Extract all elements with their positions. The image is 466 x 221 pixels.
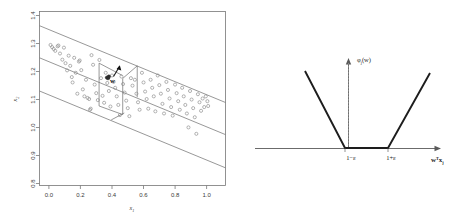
scatter-point bbox=[161, 102, 164, 105]
y-tick-label: 0.9 bbox=[30, 151, 36, 160]
scatter-point bbox=[182, 95, 185, 98]
scatter-point bbox=[196, 93, 199, 96]
scatter-point bbox=[177, 100, 180, 103]
tick-label-lower: 1−ε bbox=[346, 154, 356, 161]
svg-text:x2: x2 bbox=[12, 97, 19, 103]
scatter-point bbox=[133, 78, 136, 81]
x-axis-label: x1 bbox=[129, 205, 135, 213]
figure-canvas: 0.8 0.9 1.0 1.1 1.2 1.3 1.4 x2 bbox=[0, 0, 466, 221]
scatter-point bbox=[129, 77, 132, 80]
w-vector-annotation: w bbox=[110, 65, 121, 84]
scatter-point bbox=[204, 95, 207, 98]
scatter-point bbox=[207, 104, 210, 107]
scatter-point bbox=[128, 115, 131, 118]
scatter-point bbox=[142, 81, 145, 84]
scatter-point bbox=[192, 107, 195, 110]
loss-x-axis-label: wTxj bbox=[431, 156, 444, 165]
x-tick-label: 0.4 bbox=[108, 192, 117, 198]
scatter-point bbox=[80, 69, 83, 72]
scatter-point bbox=[95, 92, 98, 95]
scatter-point bbox=[201, 97, 204, 100]
scatter-point bbox=[187, 126, 190, 129]
scatter-point bbox=[92, 63, 95, 66]
scatter-point bbox=[178, 108, 181, 111]
x-axis-ticks: 0.0 0.2 0.4 0.6 0.8 1.0 bbox=[45, 186, 212, 199]
scatter-point bbox=[57, 44, 60, 47]
scatter-point bbox=[149, 78, 152, 81]
partition-segment-3 bbox=[123, 66, 138, 79]
scatter-point bbox=[188, 89, 191, 92]
scatter-point bbox=[67, 54, 70, 57]
scatter-point bbox=[206, 100, 209, 103]
scatter-point bbox=[117, 103, 120, 106]
x-tick-label: 0.6 bbox=[139, 192, 148, 198]
loss-x-ticks bbox=[345, 149, 388, 153]
scatter-point bbox=[168, 97, 171, 100]
scatter-point bbox=[83, 95, 86, 98]
scatter-point bbox=[71, 81, 74, 84]
y-axis-label: x2 bbox=[12, 97, 19, 103]
scatter-svg: 0.8 0.9 1.0 1.1 1.2 1.3 1.4 x2 bbox=[0, 0, 233, 221]
y-axis-ticks: 0.8 0.9 1.0 1.1 1.2 1.3 1.4 bbox=[30, 11, 40, 188]
partition-segment-5 bbox=[111, 113, 124, 120]
scatter-point bbox=[99, 77, 102, 80]
scatter-point bbox=[69, 64, 72, 67]
scatter-point bbox=[107, 89, 110, 92]
scatter-point bbox=[120, 75, 123, 78]
scatter-point bbox=[84, 78, 87, 81]
scatter-point bbox=[138, 108, 141, 111]
scatter-point bbox=[140, 71, 143, 74]
scatter-point bbox=[81, 88, 84, 91]
scatter-point bbox=[64, 62, 67, 65]
scatter-point bbox=[104, 71, 107, 74]
scatter-point bbox=[136, 101, 139, 104]
scatter-point bbox=[203, 106, 206, 109]
scatter-point bbox=[115, 95, 118, 98]
epsilon-lower-boundary bbox=[40, 91, 226, 168]
scatter-point bbox=[185, 112, 188, 115]
plot-frame bbox=[40, 12, 226, 186]
x-tick-label: 0.0 bbox=[45, 192, 54, 198]
loss-y-axis-label: φj(w) bbox=[357, 56, 371, 65]
scatter-point bbox=[98, 58, 101, 61]
regression-hyperplane bbox=[40, 58, 226, 135]
x-tick-label: 0.2 bbox=[76, 192, 85, 198]
scatter-point bbox=[175, 92, 178, 95]
scatter-point bbox=[193, 116, 196, 119]
scatter-point bbox=[162, 112, 165, 115]
scatter-point bbox=[184, 103, 187, 106]
scatter-point bbox=[147, 107, 150, 110]
scatter-point bbox=[198, 101, 201, 104]
scatter-point bbox=[166, 88, 169, 91]
y-tick-label: 1.3 bbox=[30, 39, 36, 48]
scatter-point bbox=[126, 107, 129, 110]
scatter-point bbox=[170, 106, 173, 109]
scatter-point bbox=[125, 99, 128, 102]
scatter-point bbox=[154, 110, 157, 113]
scatter-point bbox=[190, 98, 193, 101]
w-label: w bbox=[110, 77, 116, 85]
tube-lines bbox=[40, 26, 226, 168]
x-tick-label: 0.8 bbox=[171, 192, 180, 198]
scatter-point bbox=[70, 76, 73, 79]
scatter-point bbox=[101, 94, 104, 97]
scatter-point bbox=[159, 92, 162, 95]
scatter-point bbox=[144, 90, 147, 93]
y-tick-label: 1.1 bbox=[30, 95, 36, 104]
y-tick-label: 1.4 bbox=[30, 11, 36, 20]
epsilon-insensitive-loss-curve bbox=[305, 71, 430, 148]
scatter-point bbox=[62, 46, 65, 49]
scatter-point bbox=[145, 97, 148, 100]
scatter-point bbox=[58, 52, 61, 55]
scatter-point bbox=[152, 95, 155, 98]
left-panel-scatter: 0.8 0.9 1.0 1.1 1.2 1.3 1.4 x2 bbox=[0, 0, 233, 221]
y-tick-label: 0.8 bbox=[30, 179, 36, 188]
scatter-point bbox=[174, 83, 177, 86]
loss-svg: 1−ε 1+ε φj(w) wTxj bbox=[233, 0, 466, 221]
scatter-point bbox=[181, 86, 184, 89]
scatter-point bbox=[73, 56, 76, 59]
partition-segment-1 bbox=[99, 106, 123, 115]
scatter-point bbox=[109, 105, 112, 108]
scatter-point bbox=[49, 43, 52, 46]
scatter-point bbox=[195, 132, 198, 135]
